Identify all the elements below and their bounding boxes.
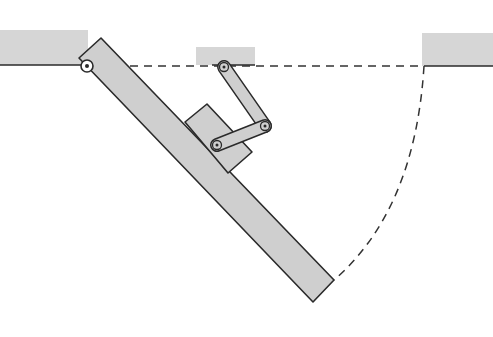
ceiling-right-block bbox=[422, 33, 493, 66]
ceiling-left-block bbox=[0, 30, 88, 65]
link-joint-middle bbox=[261, 122, 270, 131]
link-pivot-top bbox=[220, 63, 229, 72]
dashed-swing-arc bbox=[334, 66, 424, 280]
main-pivot bbox=[81, 60, 93, 72]
ceiling-supports bbox=[0, 30, 493, 66]
link-joint-block bbox=[213, 141, 222, 150]
mechanism-diagram bbox=[0, 0, 493, 337]
upper-link bbox=[224, 67, 265, 126]
main-bar bbox=[79, 38, 334, 302]
